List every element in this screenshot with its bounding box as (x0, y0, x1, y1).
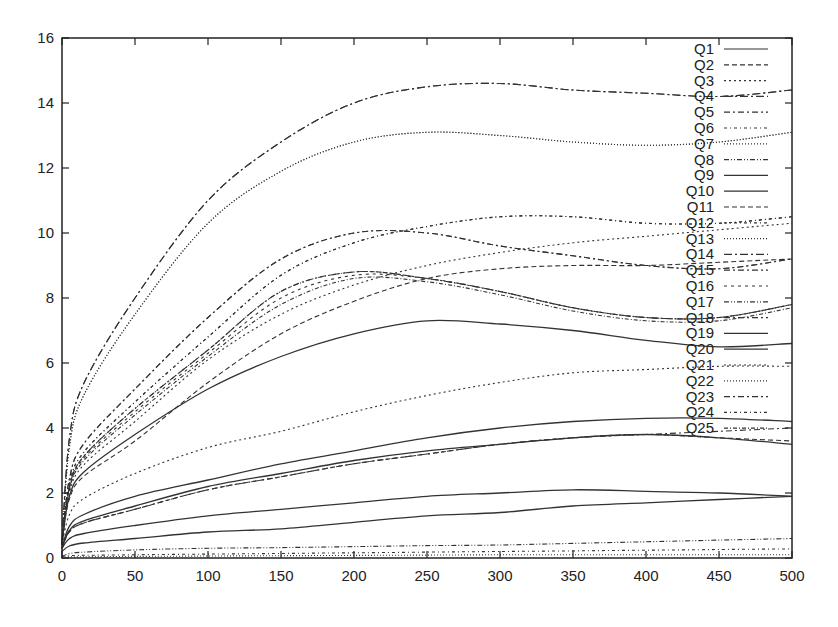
series-line-q13 (62, 132, 792, 545)
x-tick-label: 450 (706, 567, 731, 584)
y-tick-label: 0 (46, 549, 54, 566)
legend-item: Q15 (686, 261, 768, 278)
legend-item: Q8 (694, 151, 768, 168)
x-tick-label: 500 (779, 567, 804, 584)
series-line-q8 (62, 271, 792, 545)
y-tick-label: 6 (46, 354, 54, 371)
series-line-q20 (62, 435, 792, 549)
series-line-q5 (62, 231, 792, 545)
legend-label: Q13 (686, 230, 714, 247)
series-line-q18 (62, 271, 792, 545)
x-tick-label: 100 (195, 567, 220, 584)
series-line-q16 (62, 274, 792, 545)
legend-label: Q5 (694, 103, 714, 120)
legend-label: Q9 (694, 166, 714, 183)
legend-label: Q16 (686, 277, 714, 294)
legend-label: Q15 (686, 261, 714, 278)
x-tick-label: 300 (487, 567, 512, 584)
y-tick-label: 16 (37, 29, 54, 46)
legend-label: Q21 (686, 356, 714, 373)
legend-label: Q11 (687, 198, 714, 215)
series-line-q14 (62, 83, 792, 541)
legend-item: Q6 (694, 119, 768, 136)
series-line-q15 (62, 231, 792, 545)
legend-item: Q11 (687, 198, 768, 215)
legend-item: Q7 (694, 135, 768, 152)
legend-label: Q18 (686, 309, 714, 326)
y-tick-label: 12 (37, 159, 54, 176)
x-tick-label: 150 (268, 567, 293, 584)
line-chart: 050100150200250300350400450500 024681012… (0, 0, 838, 627)
series-line-q7 (62, 132, 792, 545)
legend-item: Q10 (686, 182, 768, 199)
legend-label: Q17 (686, 293, 714, 310)
legend-label: Q10 (686, 182, 714, 199)
x-tick-label: 0 (58, 567, 66, 584)
legend-item: Q14 (686, 245, 768, 262)
legend-item: Q18 (686, 309, 768, 326)
series-line-q10 (62, 418, 792, 548)
series-layer (62, 83, 792, 557)
series-line-q4 (62, 83, 792, 541)
y-tick-label: 14 (37, 94, 54, 111)
series-line-q11 (62, 435, 792, 549)
legend-item: Q16 (686, 277, 768, 294)
y-tick-label: 8 (46, 289, 54, 306)
legend-item: Q5 (694, 103, 768, 120)
legend-label: Q19 (686, 324, 714, 341)
legend-item: Q2 (694, 56, 768, 73)
y-tick-label: 10 (37, 224, 54, 241)
legend-item: Q22 (686, 372, 768, 389)
legend-item: Q21 (686, 356, 768, 373)
legend-label: Q22 (686, 372, 714, 389)
legend-label: Q20 (686, 340, 714, 357)
legend: Q1Q2Q3Q4Q5Q6Q7Q8Q9Q10Q11Q12Q13Q14Q15Q16Q… (686, 40, 768, 436)
x-tick-label: 350 (560, 567, 585, 584)
plot-frame (62, 38, 792, 558)
legend-item: Q17 (686, 293, 768, 310)
legend-label: Q2 (694, 56, 714, 73)
legend-item: Q23 (686, 388, 768, 405)
x-tick-label: 50 (127, 567, 144, 584)
legend-item: Q4 (694, 87, 768, 104)
legend-item: Q19 (686, 324, 768, 341)
y-tick-label: 2 (46, 484, 54, 501)
legend-label: Q4 (694, 87, 714, 104)
legend-label: Q23 (686, 388, 714, 405)
x-tick-label: 400 (633, 567, 658, 584)
x-tick-label: 200 (341, 567, 366, 584)
legend-label: Q1 (694, 40, 714, 57)
legend-label: Q3 (694, 72, 714, 89)
legend-label: Q12 (686, 214, 714, 231)
legend-item: Q9 (694, 166, 768, 183)
series-line-q19 (62, 496, 792, 551)
legend-item: Q3 (694, 72, 768, 89)
legend-label: Q8 (694, 151, 714, 168)
legend-label: Q24 (686, 403, 714, 420)
legend-item: Q12 (686, 214, 768, 231)
y-tick-label: 4 (46, 419, 54, 436)
legend-item: Q20 (686, 340, 768, 357)
legend-item: Q1 (694, 40, 768, 57)
series-line-q9 (62, 320, 792, 541)
x-tick-label: 250 (414, 567, 439, 584)
legend-label: Q6 (694, 119, 714, 136)
legend-label: Q25 (686, 419, 714, 436)
series-line-q21 (62, 366, 792, 545)
legend-item: Q25 (686, 419, 768, 436)
y-axis: 0246810121416 (37, 29, 792, 566)
legend-label: Q14 (686, 245, 714, 262)
legend-item: Q13 (686, 230, 768, 247)
legend-item: Q24 (686, 403, 768, 420)
legend-label: Q7 (694, 135, 714, 152)
